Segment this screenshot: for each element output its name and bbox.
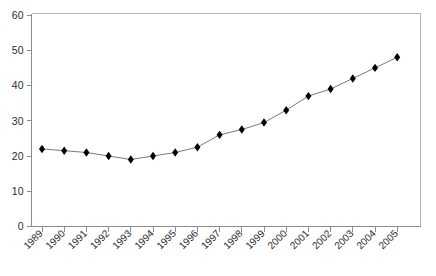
- data-point-marker: [394, 53, 400, 61]
- data-point-marker: [217, 131, 223, 139]
- y-axis-tick-label: 30: [12, 115, 24, 127]
- line-chart: 0102030405060198919901991199219931994199…: [0, 0, 436, 276]
- plot-area-border: [32, 14, 421, 227]
- data-point-marker: [194, 143, 200, 151]
- y-axis-tick-label: 60: [12, 9, 24, 21]
- y-axis-tick-label: 10: [12, 185, 24, 197]
- data-point-marker: [239, 125, 245, 133]
- data-point-marker: [261, 118, 267, 126]
- series-line-1: [42, 57, 397, 159]
- data-point-marker: [350, 74, 356, 82]
- data-point-marker: [372, 64, 378, 72]
- y-axis-tick-label: 0: [18, 220, 24, 232]
- y-axis-tick-label: 50: [12, 44, 24, 56]
- data-point-marker: [328, 85, 334, 93]
- data-point-marker: [83, 148, 89, 156]
- data-point-marker: [150, 152, 156, 160]
- data-point-marker: [283, 106, 289, 114]
- data-point-marker: [305, 92, 311, 100]
- data-point-marker: [172, 148, 178, 156]
- data-point-marker: [61, 147, 67, 155]
- data-point-marker: [39, 145, 45, 153]
- y-axis-tick-label: 20: [12, 150, 24, 162]
- data-point-marker: [128, 155, 134, 163]
- data-point-marker: [106, 152, 112, 160]
- y-axis-tick-label: 40: [12, 79, 24, 91]
- chart-canvas: 0102030405060198919901991199219931994199…: [0, 0, 436, 276]
